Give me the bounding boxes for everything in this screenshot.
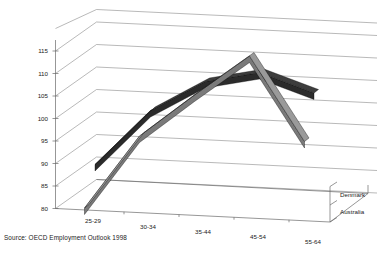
line-chart-3d: 115 110 105 100 95 90 85 80 25-29 30-34 … [0,0,378,255]
x-category-label: 55-64 [305,238,321,245]
x-category-label: 45-54 [250,233,266,240]
x-category-label: 35-44 [195,228,211,235]
y-tick-label: 110 [38,70,48,77]
chart-gridlines [56,10,378,209]
x-category-label: 25-29 [85,217,101,224]
series-label-australia: Australia [340,208,365,215]
y-tick-label: 90 [41,160,48,167]
y-tick-label: 80 [41,205,48,212]
series-label-denmark: Denmark [340,191,366,198]
x-category-label: 30-34 [140,223,156,230]
source-note: Source: OECD Employment Outlook 1998 [4,234,127,241]
y-tick-label: 85 [41,182,48,189]
y-tick-label: 95 [41,137,48,144]
series-depth-labels: Denmark Australia [340,191,366,216]
y-tick-label: 100 [38,115,49,122]
y-tick-label: 115 [38,47,48,54]
y-tick-labels: 115 110 105 100 95 90 85 80 [38,47,49,212]
depth-axis [330,182,368,222]
y-axis [53,40,59,209]
y-tick-label: 105 [38,92,49,99]
chart-container: 115 110 105 100 95 90 85 80 25-29 30-34 … [0,0,378,255]
